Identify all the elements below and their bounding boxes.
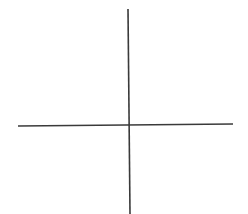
diagram-canvas (0, 0, 248, 214)
vertical-axis-line (128, 9, 130, 214)
cross-axes-diagram (0, 0, 248, 214)
horizontal-axis-line (18, 124, 233, 126)
